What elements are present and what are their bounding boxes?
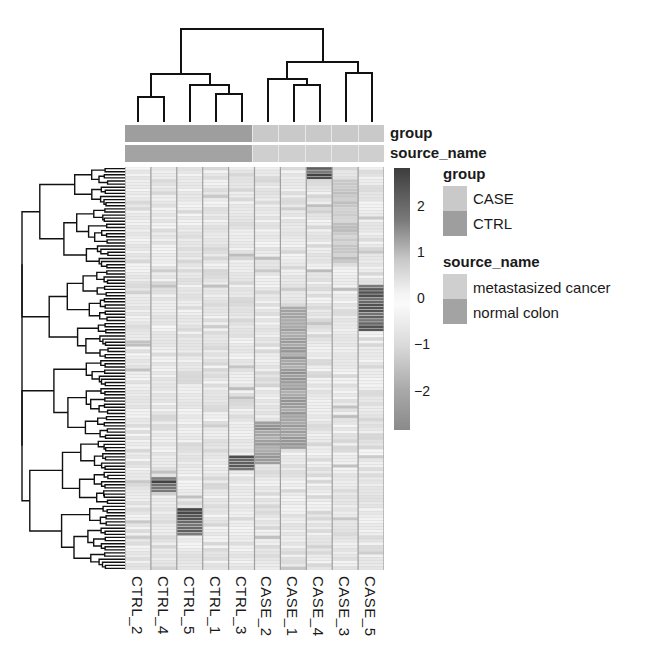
source-annotation-cell	[279, 145, 305, 162]
colorbar-tick-0: 0	[417, 290, 425, 306]
legend-label-normal: normal colon	[473, 304, 559, 321]
legend-swatch-metastasized	[443, 274, 467, 299]
group-annotation-cell	[359, 125, 384, 142]
colorbar-tick-2: 2	[417, 198, 425, 214]
column-label: CTRL_2	[129, 576, 146, 635]
legend-label-case: CASE	[473, 190, 514, 207]
colorbar-tick-neg1: −1	[414, 336, 430, 352]
group-annotation-cell	[253, 125, 279, 142]
group-annotation-cell	[306, 125, 332, 142]
group-annotation-cell	[332, 125, 358, 142]
legend-swatch-ctrl	[443, 211, 467, 236]
row-dendrogram	[0, 160, 126, 575]
source-annotation-cell	[332, 145, 358, 162]
column-label: CASE_4	[310, 576, 327, 637]
source-annotation-cell	[306, 145, 332, 162]
group-annotation-bar	[125, 125, 384, 142]
group-annotation-cell	[176, 125, 201, 142]
column-label: CTRL_3	[233, 576, 250, 635]
group-annotation-cell	[150, 125, 175, 142]
heatmap-grid	[125, 167, 384, 570]
column-label: CTRL_1	[207, 576, 224, 635]
column-label: CASE_2	[258, 576, 275, 637]
source-annotation-cell	[176, 145, 201, 162]
source-annotation-cell	[359, 145, 384, 162]
source-annotation-cell	[253, 145, 279, 162]
column-label: CASE_1	[284, 576, 301, 637]
group-annotation-cell	[227, 125, 253, 142]
column-label: CTRL_4	[155, 576, 172, 635]
colorbar-tick-1: 1	[417, 244, 425, 260]
column-dendrogram	[0, 0, 659, 125]
legend-label-ctrl: CTRL	[473, 215, 512, 232]
legend-swatch-normal	[443, 299, 467, 324]
legend-label-metastasized: metastasized cancer	[473, 279, 611, 296]
group-annotation-cell	[201, 125, 226, 142]
group-legend-title: group	[443, 165, 486, 182]
source-annotation-cell	[150, 145, 175, 162]
source-legend-title: source_name	[443, 253, 540, 270]
legend-swatch-case	[443, 186, 467, 211]
source-annotation-cell	[201, 145, 226, 162]
source-name-annotation-bar	[125, 145, 384, 162]
source-name-annotation-label: source_name	[390, 144, 487, 161]
color-scale-bar	[394, 168, 410, 430]
source-annotation-cell	[125, 145, 150, 162]
group-annotation-cell	[279, 125, 305, 142]
group-annotation-label: group	[390, 124, 433, 141]
source-annotation-cell	[227, 145, 253, 162]
group-annotation-cell	[125, 125, 150, 142]
column-label: CASE_3	[336, 576, 353, 637]
column-label: CTRL_5	[181, 576, 198, 635]
colorbar-tick-neg2: −2	[414, 383, 430, 399]
column-label: CASE_5	[362, 576, 379, 637]
